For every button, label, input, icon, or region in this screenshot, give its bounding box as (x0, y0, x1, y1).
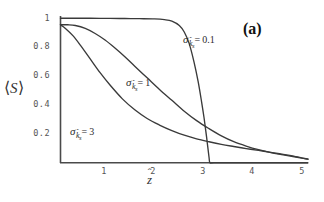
x-tick-label-4: 4 (245, 166, 259, 176)
y-axis-symbol: S (10, 80, 18, 96)
x-tick-label-1: 1 (97, 166, 111, 176)
y-tick-label-1: 1 (20, 13, 50, 23)
y-axis-bracket-close: ⟩ (18, 79, 24, 96)
sigma-subsubscript-s: s (135, 85, 138, 92)
y-tick-label-0-4: 0.4 (14, 99, 50, 109)
x-axis-title: ˆz (147, 172, 152, 188)
y-axis-title: ⟨S⟩ (4, 78, 24, 97)
sigma-glyph: σ (183, 33, 188, 45)
sigma-glyph: σ (126, 76, 131, 88)
sigma-subsubscript-s: s (192, 42, 195, 49)
x-tick-label-5: 5 (295, 166, 309, 176)
sigma-value: 1 (145, 77, 150, 88)
panel-label: (a) (243, 20, 262, 38)
y-tick-label-0-2: 0.2 (14, 128, 50, 138)
curve-label-sigma-3: σˆks=3 (70, 125, 94, 137)
curve-label-sigma-1: σˆks=1 (126, 76, 150, 88)
x-tick-label-3: 3 (196, 166, 210, 176)
equals-glyph: = (195, 34, 201, 45)
sigma-value: 3 (89, 126, 94, 137)
equals-glyph: = (82, 126, 88, 137)
curve-label-sigma-0-1: σˆks=0.1 (183, 33, 215, 45)
sigma-glyph: σ (70, 125, 75, 137)
sigma-subsubscript-s: s (79, 134, 82, 141)
y-tick-label-0-8: 0.8 (14, 41, 50, 51)
figure-panel-a: 1 0.8 0.6 0.4 0.2 1 2 3 4 5 ⟨S⟩ ˆz σˆks=… (0, 0, 324, 202)
x-axis-hat: ˆ (148, 167, 152, 178)
sigma-value: 0.1 (202, 34, 215, 45)
x-axis-symbol-group: ˆz (147, 172, 152, 188)
equals-glyph: = (138, 77, 144, 88)
